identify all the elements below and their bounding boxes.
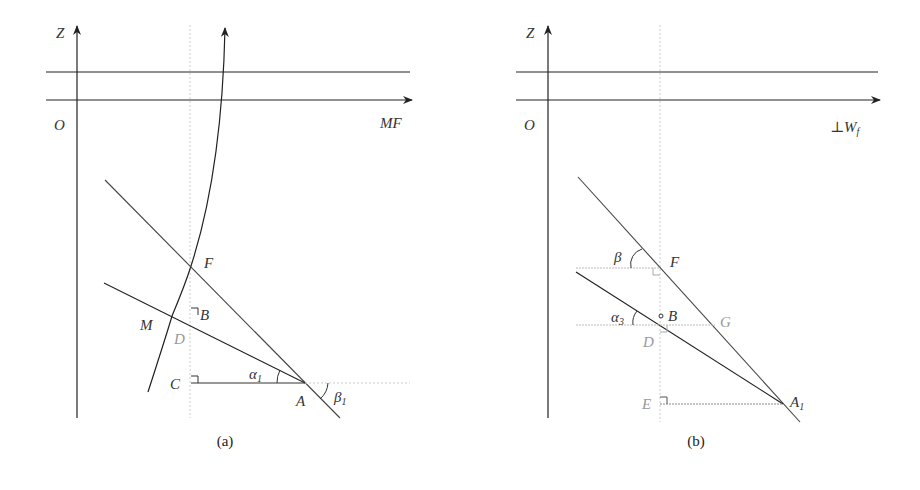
point-f-label: F (203, 255, 214, 271)
perp-wf-axis-label: ⊥Wf (830, 119, 861, 137)
line-d-a1 (576, 272, 783, 404)
point-b-dot (659, 314, 663, 318)
point-e-label: E (641, 396, 651, 412)
right-angle-f (653, 268, 660, 275)
point-b-label: B (200, 307, 209, 323)
angle-beta-arc (631, 249, 642, 268)
point-b-label: B (668, 308, 677, 324)
figure-canvas: Z O MF F B M D C A α1 β1 (a) Z (0, 0, 920, 490)
origin-label: O (524, 117, 535, 133)
point-a-label: A (295, 393, 306, 409)
point-g-label: G (720, 314, 731, 330)
angle-beta1-label: β1 (333, 389, 346, 407)
right-angle-b (191, 308, 198, 315)
point-c-label: C (170, 376, 181, 392)
z-axis-label: Z (56, 25, 65, 41)
angle-alpha3-label: α3 (611, 309, 624, 327)
angle-alpha3-arc (633, 311, 637, 325)
angle-alpha1-label: α1 (249, 366, 262, 384)
line-m-a (104, 283, 305, 383)
right-angle-e (660, 397, 667, 404)
angle-beta1-arc (320, 383, 328, 399)
caption-b: (b) (687, 433, 705, 450)
origin-label: O (54, 117, 65, 133)
line-f-a1 (578, 177, 800, 422)
point-a1-label: A1 (789, 394, 804, 412)
right-angle-c (191, 376, 198, 383)
angle-alpha1-arc (277, 370, 280, 383)
point-d-label: D (173, 331, 185, 347)
z-axis-label: Z (526, 25, 535, 41)
mf-axis-label: MF (379, 115, 402, 131)
point-f-label: F (669, 254, 680, 270)
point-m-label: M (139, 317, 154, 333)
caption-a: (a) (217, 433, 234, 450)
angle-beta-label: β (613, 249, 622, 265)
point-d-label: D (642, 334, 654, 350)
panel-b: Z O ⊥Wf F B G D E A1 β α3 (b) (516, 25, 880, 450)
panel-a: Z O MF F B M D C A α1 β1 (a) (46, 25, 412, 450)
